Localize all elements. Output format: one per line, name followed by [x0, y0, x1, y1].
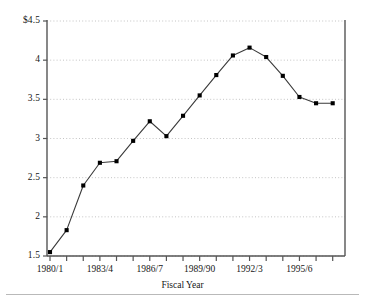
y-axis-tick-label: 4: [35, 55, 40, 65]
y-axis-tick-label: 2.5: [28, 173, 40, 183]
data-point-marker: [81, 183, 85, 187]
y-axis-tick-label: $4.5: [23, 16, 40, 26]
data-point-marker: [164, 134, 168, 138]
x-axis-title: Fiscal Year: [0, 281, 365, 291]
data-point-marker: [98, 161, 102, 165]
data-point-marker: [114, 159, 118, 163]
data-point-marker: [314, 101, 318, 105]
y-axis-tick-label: 2: [35, 212, 40, 222]
footer-divider: [6, 294, 359, 295]
y-axis-tick-label: 3.5: [28, 94, 40, 104]
data-point-marker: [65, 228, 69, 232]
line-chart-plot: [0, 0, 365, 302]
y-axis-tick-label: 1.5: [28, 251, 40, 261]
data-point-marker: [248, 46, 252, 50]
data-point-marker: [331, 101, 335, 105]
data-point-marker: [231, 53, 235, 57]
data-point-marker: [198, 93, 202, 97]
data-point-marker: [181, 114, 185, 118]
data-series-line: [50, 48, 333, 252]
y-axis-tick-label: 3: [35, 134, 40, 144]
x-axis-tick-label: 1995/6: [259, 265, 339, 275]
data-point-marker: [297, 95, 301, 99]
data-point-marker: [214, 73, 218, 77]
data-point-marker: [281, 74, 285, 78]
data-point-marker: [148, 119, 152, 123]
data-point-marker: [264, 55, 268, 59]
data-point-marker: [131, 139, 135, 143]
chart-figure: 1.522.533.54$4.5 1980/11983/41986/71989/…: [0, 0, 365, 302]
data-point-marker: [48, 250, 52, 254]
